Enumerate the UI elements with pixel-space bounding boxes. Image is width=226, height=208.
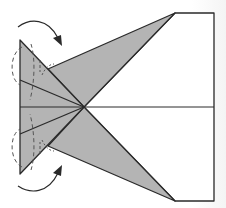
lower-arrowhead-icon xyxy=(53,165,62,176)
lower-fold-arrow xyxy=(18,173,58,191)
origami-diagram xyxy=(0,0,226,208)
diagram-svg xyxy=(0,0,226,208)
upper-fold-arrow xyxy=(18,21,58,38)
upper-arrowhead-icon xyxy=(53,35,62,46)
